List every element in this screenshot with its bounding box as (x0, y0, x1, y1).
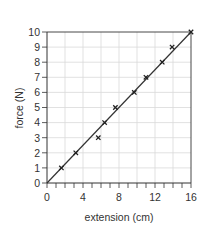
y-tick-label: 6 (34, 86, 40, 98)
y-axis-title: force (N) (13, 88, 25, 129)
x-tick-label: 12 (149, 191, 161, 203)
y-tick-label: 10 (28, 26, 40, 38)
y-tick-label: 7 (34, 71, 40, 83)
y-tick-labels: 012345678910 (28, 26, 40, 189)
y-tick-label: 0 (34, 177, 40, 189)
x-tick-label: 0 (44, 191, 50, 203)
x-axis-title: extension (cm) (85, 211, 154, 223)
y-tick-label: 2 (34, 147, 40, 159)
y-tick-label: 9 (34, 41, 40, 53)
y-tick-label: 1 (34, 162, 40, 174)
x-tick-label: 4 (80, 191, 86, 203)
y-tick-label: 8 (34, 56, 40, 68)
x-tick-labels: 0481216 (44, 191, 197, 203)
x-tick-label: 16 (185, 191, 197, 203)
y-tick-label: 3 (34, 132, 40, 144)
x-tick-label: 8 (116, 191, 122, 203)
force-extension-chart: 0481216 012345678910 extension (cm) forc… (0, 0, 205, 233)
y-tick-label: 5 (34, 101, 40, 113)
y-tick-label: 4 (34, 116, 40, 128)
